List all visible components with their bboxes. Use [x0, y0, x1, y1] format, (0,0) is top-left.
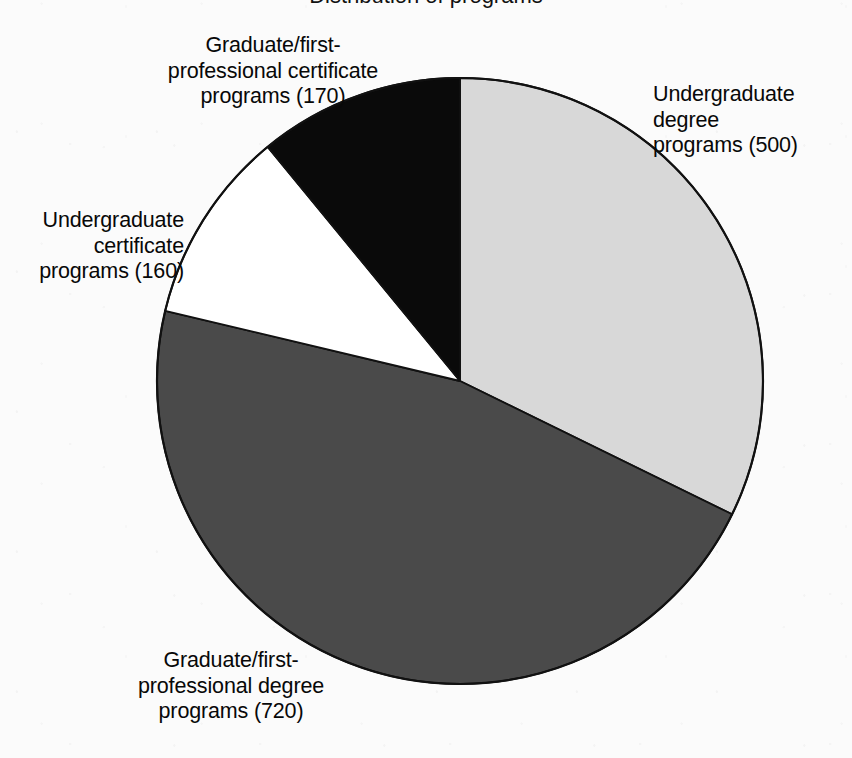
slice-label-undergraduate-certificate: Undergraduate certificate programs (160) [2, 208, 184, 285]
pie-slices [157, 78, 763, 684]
slice-label-graduate-first-professional-degree: Graduate/first- professional degree prog… [86, 648, 376, 725]
slice-label-graduate-first-professional-certificate: Graduate/first- professional certificate… [148, 33, 398, 110]
slice-label-undergraduate-degree: Undergraduate degree programs (500) [653, 82, 852, 159]
